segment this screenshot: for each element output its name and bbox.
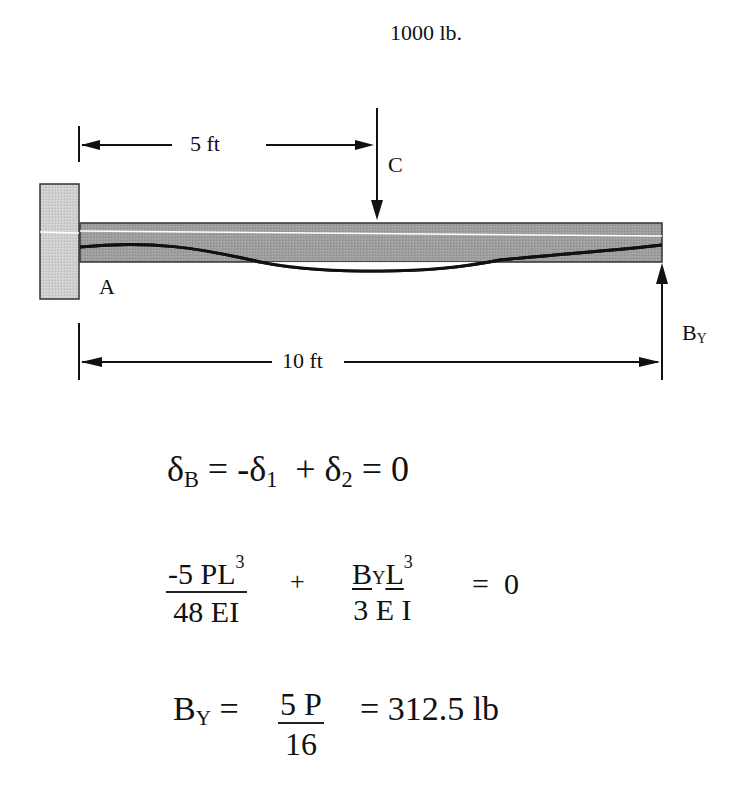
dimension-10ft	[79, 323, 660, 380]
point-a-label: A	[99, 274, 115, 300]
numerator-b: B	[352, 557, 372, 590]
equation-compatibility: δB = -δ1 + δ2 = 0	[167, 448, 409, 493]
beam	[80, 223, 662, 271]
equals-zero: = 0	[353, 449, 409, 489]
plus-sign: +	[290, 567, 305, 597]
fraction-denominator: 48 EI	[166, 593, 247, 627]
numerator-l: L	[385, 557, 403, 590]
subscript-2: 2	[342, 467, 353, 492]
equals-zero: = 0	[472, 567, 519, 601]
equals-sign: =	[211, 690, 247, 727]
fraction-numerator: -5 PL3	[166, 553, 247, 593]
dimension-5ft-label: 5 ft	[190, 131, 220, 157]
point-c-label: C	[388, 152, 403, 178]
exponent: 3	[404, 552, 413, 572]
lhs-b: B	[173, 690, 196, 727]
delta-symbol: δ	[167, 449, 184, 489]
exponent: 3	[236, 552, 245, 572]
reaction-lhs: BY =	[173, 690, 247, 731]
fraction-denominator: 16	[278, 724, 324, 760]
plus-delta: + δ	[277, 449, 341, 489]
reaction-label-main: B	[682, 320, 697, 345]
fraction-numerator: 5 P	[278, 688, 324, 724]
load-label: 1000 lb.	[390, 20, 462, 46]
fraction-load-deflection: -5 PL3 48 EI	[166, 553, 247, 627]
fraction-reaction-deflection: BYL3 3 E I	[350, 553, 415, 625]
subscript-b: B	[184, 467, 199, 492]
fraction-denominator: 3 E I	[350, 591, 415, 625]
minus-delta: -δ	[237, 449, 266, 489]
dimension-10ft-label: 10 ft	[282, 348, 323, 374]
beam-diagram	[0, 0, 753, 420]
reaction-result-value: = 312.5 lb	[360, 690, 499, 728]
load-arrow-down	[371, 108, 383, 220]
equals-sign: =	[199, 449, 237, 489]
reaction-label: BY	[682, 320, 707, 347]
fraction-five-p-over-sixteen: 5 P 16	[278, 688, 324, 760]
numerator-y: Y	[372, 567, 385, 588]
lhs-subscript-y: Y	[196, 706, 211, 730]
fraction-numerator: BYL3	[350, 553, 415, 591]
reaction-label-sub: Y	[697, 331, 707, 346]
subscript-1: 1	[266, 467, 277, 492]
dimension-5ft	[79, 126, 374, 162]
fixed-wall-support	[40, 184, 79, 299]
numerator-text: -5 PL	[168, 557, 236, 590]
